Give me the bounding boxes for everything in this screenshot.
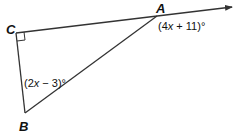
angle-label-b: (2x − 3)° bbox=[24, 77, 66, 89]
vertex-label-a: A bbox=[155, 1, 165, 16]
triangle-diagram: C A B (4x + 11)° (2x − 3)° bbox=[0, 0, 235, 136]
angle-label-a-exterior: (4x + 11)° bbox=[158, 20, 205, 32]
side-cb bbox=[16, 33, 25, 113]
side-ba bbox=[25, 16, 157, 113]
vertex-label-b: B bbox=[19, 119, 28, 134]
vertex-label-c: C bbox=[6, 22, 16, 37]
